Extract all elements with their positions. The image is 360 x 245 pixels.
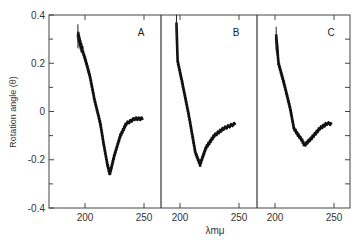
panel-label: B — [233, 27, 240, 38]
y-tick-label: 0.2 — [31, 58, 45, 69]
x-tick-label: 200 — [267, 212, 284, 223]
y-tick-label: -0.2 — [28, 154, 46, 165]
y-tick-label: 0.4 — [31, 10, 45, 21]
curve-a — [78, 33, 143, 174]
panels: 200250A200250B200250C — [77, 15, 343, 223]
panel-label: C — [327, 27, 334, 38]
x-tick-label: 250 — [136, 212, 153, 223]
curve-b — [177, 23, 236, 166]
x-tick-label: 250 — [231, 212, 248, 223]
y-tick-label: -0.4 — [28, 203, 46, 214]
curve-c — [276, 35, 331, 145]
panel-label: A — [138, 27, 145, 38]
panel-c: 200250C — [267, 15, 343, 223]
panel-b: 200250B — [172, 15, 248, 223]
x-tick-label: 250 — [326, 212, 343, 223]
plot-border — [49, 15, 350, 208]
panel-a: 200250A — [77, 15, 153, 223]
y-axis-title: Rotation angle (θ) — [8, 76, 18, 148]
rotation-angle-chart: 0.40.20-0.2-0.4 200250A200250B200250C Ro… — [0, 0, 360, 245]
x-tick-label: 200 — [172, 212, 189, 223]
x-tick-label: 200 — [77, 212, 94, 223]
x-axis-title: λmμ — [205, 225, 224, 236]
y-tick-label: 0 — [39, 106, 45, 117]
plot-frame — [49, 15, 350, 208]
